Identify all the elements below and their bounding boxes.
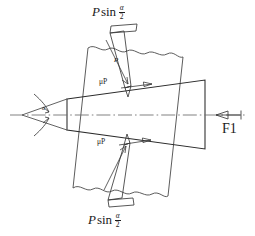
normal-force-arrow-bottom xyxy=(104,146,126,190)
force-label-bottom: Psinα2 xyxy=(88,212,121,229)
apex-angle-label: α xyxy=(42,105,45,111)
apex-arc-lower xyxy=(34,118,49,136)
friction-label-top: μP xyxy=(99,78,107,86)
force-label-top: Psinα2 xyxy=(92,4,125,21)
plate-body xyxy=(73,47,183,197)
fraction-top: α2 xyxy=(119,4,125,21)
force-arrow-bottom-tail xyxy=(108,198,134,207)
normal-force-label-top: P xyxy=(114,57,118,64)
wedge-apex-lower-line xyxy=(22,115,67,130)
driving-force-label: F1 xyxy=(222,122,237,136)
plate-bottom-break-line xyxy=(73,187,168,197)
plate-top-break-line xyxy=(88,47,183,58)
wedge-force-diagram: Psinα2 Psinα2 μP μP F1 α P xyxy=(0,0,255,236)
driving-force-arrow xyxy=(216,111,241,120)
force-arrow-top-tail xyxy=(110,24,137,33)
friction-label-bottom: μP xyxy=(97,138,105,146)
plate-left-edge xyxy=(73,48,88,188)
normal-force-bottom-line xyxy=(104,146,126,190)
fraction-bottom: α2 xyxy=(115,212,121,229)
diagram-canvas xyxy=(0,0,255,236)
friction-bottom-line xyxy=(119,140,151,145)
wedge-outline xyxy=(67,80,205,149)
friction-top-line xyxy=(121,84,152,88)
wedge-body xyxy=(67,80,205,149)
plate-right-edge xyxy=(168,57,183,196)
